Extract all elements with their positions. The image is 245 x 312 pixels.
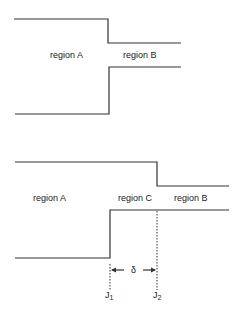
bottom-region-b-label: region B xyxy=(174,193,208,203)
left-arrowhead-icon xyxy=(111,268,116,273)
j2-label: J2 xyxy=(153,290,162,301)
junction-diagrams: region A region B region A region C regi… xyxy=(0,0,245,312)
delta-arrows: δ xyxy=(111,265,156,275)
bottom-region-c-label: region C xyxy=(118,193,153,203)
top-diagram: region A region B xyxy=(14,19,181,114)
bottom-region-a-label: region A xyxy=(33,193,66,203)
right-arrowhead-icon xyxy=(151,268,156,273)
bottom-lower-boundary xyxy=(15,210,229,258)
top-region-a-label: region A xyxy=(50,50,83,60)
bottom-diagram: region A region C region B δ J1 J2 xyxy=(15,162,229,301)
j1-label: J1 xyxy=(105,290,114,301)
top-upper-boundary xyxy=(14,19,181,43)
top-lower-boundary xyxy=(15,67,181,114)
delta-label: δ xyxy=(131,265,136,275)
top-region-b-label: region B xyxy=(123,50,157,60)
diagram-canvas: region A region B region A region C regi… xyxy=(0,0,245,312)
bottom-upper-boundary xyxy=(15,162,229,186)
